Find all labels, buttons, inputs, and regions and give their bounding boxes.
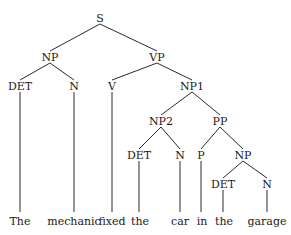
tree-node-np: NP [41,52,58,63]
tree-node-pp: PP [213,116,228,127]
tree-node-np2: NP2 [149,116,173,127]
tree-node-det3: DET [211,179,235,190]
tree-edge-pp-np3 [220,127,243,149]
tree-edge-s-np [50,24,100,51]
tree-word: garage [248,216,287,227]
tree-node-n1: N [69,81,79,92]
tree-node-n2: N [175,150,185,161]
tree-edge-np1-np2 [161,92,192,115]
tree-node-n3: N [262,179,272,190]
tree-word: the [131,216,149,227]
tree-word: in [197,216,208,227]
tree-node-np1: NP1 [180,81,204,92]
tree-word: car [171,216,189,227]
tree-word: mechanic [47,216,101,227]
tree-edge-np-det1 [20,63,50,80]
tree-node-det2: DET [127,150,151,161]
tree-edge-vp-v [112,63,157,80]
tree-edge-np2-n2 [161,127,180,149]
tree-edge-np2-det2 [139,127,161,149]
tree-word: The [10,216,31,227]
tree-word: fixed [98,216,125,227]
tree-node-s: S [96,13,104,24]
tree-edge-np3-det3 [223,161,243,178]
tree-node-det1: DET [8,81,32,92]
tree-edge-np1-pp [192,92,220,115]
tree-node-vp: VP [149,52,164,63]
tree-edge-np3-n3 [243,161,267,178]
tree-node-v: V [108,81,116,92]
tree-edge-pp-p [201,127,220,149]
tree-node-np3: NP [234,150,251,161]
tree-word: the [215,216,233,227]
tree-edges [0,0,291,235]
tree-edge-np-n1 [50,63,74,80]
tree-edge-vp-np1 [157,63,192,80]
parse-tree-diagram: SNPVPDETNVNP1NP2PPDETNPNPDETNThemechanic… [0,0,291,235]
tree-node-p: P [197,150,204,161]
tree-edge-s-vp [100,24,157,51]
